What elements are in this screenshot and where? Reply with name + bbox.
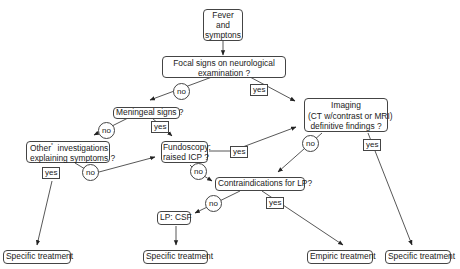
node-text: Imaging: [308, 100, 384, 111]
node-text: Focal signs on neurological: [166, 58, 282, 68]
label-focal-no: no: [173, 83, 190, 100]
label-fundoscopy-no: no: [190, 163, 207, 180]
edge-other-specific1: [37, 181, 52, 245]
node-text: Specific treatment: [146, 251, 205, 262]
node-text: symptons: [204, 30, 242, 40]
node-text: raised ICP ?: [163, 152, 206, 162]
node-empiric-treatment: Empiric treatment: [307, 250, 373, 264]
label-other-no: no: [82, 164, 99, 181]
node-specific-treatment-2: Specific treatment: [143, 250, 208, 264]
node-other-investigations: Other* investigations explaining symptom…: [26, 141, 110, 163]
label-meningeal-no: no: [98, 122, 115, 139]
node-text: explaining symptoms ?: [30, 153, 106, 163]
node-text: (CT w/contrast or MRI): [308, 111, 384, 122]
node-text-other: Other: [30, 143, 51, 153]
node-fundoscopy: Fundoscopy: raised ICP ?: [161, 141, 208, 163]
node-text: Meningeal signs ?: [116, 108, 177, 117]
label-focal-yes: yes: [250, 84, 268, 96]
node-focal-signs: Focal signs on neurological examination …: [162, 56, 286, 78]
node-text: LP: CSF: [160, 212, 188, 223]
node-text: and: [204, 20, 242, 30]
label-imaging-yes: yes: [363, 139, 381, 151]
node-text: Fever: [204, 10, 242, 20]
node-meningeal-signs: Meningeal signs ?: [113, 107, 180, 119]
node-text: Contraindications for LP?: [218, 178, 302, 189]
node-text: Specific treatment: [6, 251, 68, 262]
node-text: definitive findings ?: [308, 121, 384, 132]
node-specific-treatment-1: Specific treatment: [3, 250, 71, 264]
node-lp-csf: LP: CSF: [157, 211, 191, 225]
node-text: Empiric treatment: [310, 251, 370, 262]
label-imaging-no: no: [302, 135, 319, 152]
node-text: Specific treatment: [388, 251, 448, 262]
label-meningeal-yes: yes: [151, 121, 169, 133]
label-other-yes: yes: [42, 167, 60, 179]
node-text: examination ?: [166, 68, 282, 78]
label-contra-no: no: [205, 195, 222, 212]
node-fever-and-symptoms: Fever and symptons: [203, 9, 243, 41]
node-specific-treatment-3: Specific treatment: [385, 250, 451, 264]
label-fundoscopy-yes: yes: [230, 146, 248, 158]
node-text: Other* investigations: [30, 143, 106, 153]
node-contraindications-lp: Contraindications for LP?: [215, 177, 305, 191]
node-text: Fundoscopy:: [163, 142, 206, 152]
label-contra-yes: yes: [266, 197, 284, 209]
footnote-mark: *: [51, 142, 53, 148]
edge-fundoscopy-imaging: [209, 127, 296, 151]
node-text-investigations: investigations: [58, 143, 109, 153]
node-imaging: Imaging (CT w/contrast or MRI) definitiv…: [304, 98, 388, 132]
